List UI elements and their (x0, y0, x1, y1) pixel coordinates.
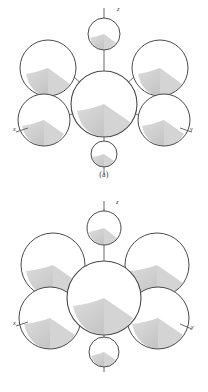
axis-label-z: z (116, 5, 120, 12)
figure-b: z x y (b) (0, 190, 208, 392)
atom-bottom-small (89, 337, 119, 367)
axis-label-x: x (12, 125, 16, 132)
atom-top-small (87, 211, 121, 245)
axis-label-z: z (115, 198, 119, 205)
atom-bottom-small (91, 141, 117, 167)
axis-label-y: y (189, 125, 193, 132)
atom-top-small (88, 18, 120, 50)
atom-center (67, 261, 141, 335)
atom-upper-right (132, 40, 188, 96)
figure-a-caption: (a) (0, 170, 208, 179)
atom-center (71, 71, 137, 137)
atom-lower-right (138, 94, 190, 146)
figure-a: z x y (a) (0, 0, 208, 196)
axis-label-y: y (190, 323, 194, 330)
figure-b-drawing: z x y (0, 190, 208, 392)
atom-upper-left (20, 40, 76, 96)
figure-a-drawing: z x y (0, 0, 208, 196)
atom-lower-left (18, 94, 70, 146)
axis-label-x: x (12, 319, 16, 326)
